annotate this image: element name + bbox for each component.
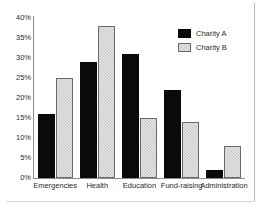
y-tick-label: 10% xyxy=(3,134,31,142)
y-tick-label: 15% xyxy=(3,114,31,122)
top-crop-artifact: . . xyxy=(38,0,46,6)
legend-label-charity-b: Charity B xyxy=(196,43,227,52)
y-tick-label: 0% xyxy=(3,174,31,182)
bar xyxy=(206,170,223,178)
y-tick-label: 20% xyxy=(3,94,31,102)
legend-swatch-icon-charity-a xyxy=(178,29,191,38)
bar-chart: . . 40%35%30%25%20%15%10%5%0% Emergencie… xyxy=(0,0,260,205)
y-tick-label: 30% xyxy=(3,54,31,62)
y-tick-label: 25% xyxy=(3,74,31,82)
legend-item-charity-a: Charity A xyxy=(178,28,252,39)
chart-frame-bottom-border xyxy=(6,201,255,202)
y-tick-label: 5% xyxy=(3,154,31,162)
bar xyxy=(182,122,199,178)
bar xyxy=(38,114,55,178)
y-axis-tick-labels: 40%35%30%25%20%15%10%5%0% xyxy=(0,0,31,205)
legend-swatch-icon-charity-b xyxy=(178,43,191,52)
bar xyxy=(224,146,241,178)
x-axis-tick-labels: EmergenciesHealthEducationFund-raisingAd… xyxy=(34,181,245,195)
bar xyxy=(164,90,181,178)
bar xyxy=(122,54,139,178)
legend-label-charity-a: Charity A xyxy=(196,29,226,38)
x-axis-line xyxy=(33,178,245,179)
chart-legend: Charity A Charity B xyxy=(178,28,252,56)
bar xyxy=(80,62,97,178)
y-tick-label: 40% xyxy=(3,14,31,22)
bar-group xyxy=(38,18,73,178)
bar-group xyxy=(80,18,115,178)
legend-item-charity-b: Charity B xyxy=(178,42,252,53)
y-tick-label: 35% xyxy=(3,34,31,42)
bar xyxy=(56,78,73,178)
chart-frame-right-border xyxy=(254,3,255,202)
x-tick-label: Administration xyxy=(197,181,251,190)
bar xyxy=(98,26,115,178)
bar-group xyxy=(122,18,157,178)
bar xyxy=(140,118,157,178)
